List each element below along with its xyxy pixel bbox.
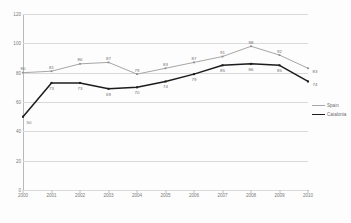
x-tick-mark <box>222 190 223 193</box>
data-point-marker <box>108 62 110 64</box>
data-label: 85 <box>220 68 225 73</box>
x-tick-mark <box>279 190 280 193</box>
x-tick-label: 2002 <box>75 193 85 198</box>
data-label: 91 <box>220 50 225 55</box>
data-label: 50 <box>27 119 32 124</box>
x-tick-mark <box>194 190 195 193</box>
x-tick-mark <box>23 190 24 193</box>
data-point-marker <box>193 73 195 75</box>
x-axis-tick-labels: 2000200120022003200420052006200720082009… <box>23 193 309 205</box>
x-tick-label: 2001 <box>46 193 56 198</box>
data-label: 69 <box>106 91 111 96</box>
data-point-marker <box>250 45 252 47</box>
data-point-marker <box>250 63 252 65</box>
data-label: 86 <box>78 57 83 62</box>
data-point-marker <box>193 62 195 64</box>
legend-item-spain[interactable]: Spain <box>312 101 351 110</box>
data-point-marker <box>279 54 281 56</box>
x-tick-label: 2006 <box>189 193 199 198</box>
x-tick-mark <box>137 190 138 193</box>
data-label: 79 <box>135 67 140 72</box>
x-tick-mark <box>80 190 81 193</box>
data-label: 70 <box>135 90 140 95</box>
x-tick-label: 2009 <box>274 193 284 198</box>
data-point-marker <box>222 56 224 58</box>
data-label: 74 <box>163 84 168 89</box>
x-tick-label: 2007 <box>217 193 227 198</box>
data-point-marker <box>79 63 81 65</box>
y-tick-label: 100 <box>1 41 21 46</box>
x-tick-label: 2000 <box>18 193 28 198</box>
data-label: 98 <box>249 39 254 44</box>
data-point-marker <box>51 82 53 84</box>
data-point-marker <box>51 70 53 72</box>
data-label: 86 <box>249 66 254 71</box>
data-label: 79 <box>192 77 197 82</box>
x-tick-mark <box>51 190 52 193</box>
series-line-catalonia <box>23 64 308 117</box>
data-point-marker <box>136 86 138 88</box>
chart-container: 120100806040200 808186877983879198928350… <box>0 0 351 223</box>
x-tick-mark <box>251 190 252 193</box>
x-tick-mark <box>308 190 309 193</box>
data-label: 73 <box>49 85 54 90</box>
legend-label-catalonia: Catalonia <box>327 112 346 117</box>
data-point-marker <box>307 67 309 69</box>
data-point-marker <box>165 67 167 69</box>
data-point-marker <box>22 72 24 74</box>
data-point-marker <box>222 64 224 66</box>
x-tick-label: 2008 <box>246 193 256 198</box>
series-lines <box>23 14 308 190</box>
data-point-marker <box>307 80 309 82</box>
y-tick-label: 60 <box>1 100 21 105</box>
plot-area: 8081868779838791989283507373697074798586… <box>23 14 308 190</box>
x-tick-mark <box>165 190 166 193</box>
x-tick-mark <box>108 190 109 193</box>
legend-label-spain: Spain <box>327 103 339 108</box>
data-label: 85 <box>277 68 282 73</box>
y-tick-label: 20 <box>1 158 21 163</box>
legend-line-swatch-spain <box>312 105 325 106</box>
x-tick-label: 2005 <box>160 193 170 198</box>
data-point-marker <box>136 73 138 75</box>
x-tick-label: 2004 <box>132 193 142 198</box>
data-label: 81 <box>49 64 54 69</box>
x-tick-label: 2003 <box>103 193 113 198</box>
data-point-marker <box>22 116 24 118</box>
data-point-marker <box>279 64 281 66</box>
data-label: 87 <box>106 55 111 60</box>
data-label: 83 <box>313 69 318 74</box>
data-point-marker <box>165 80 167 82</box>
data-label: 83 <box>163 61 168 66</box>
data-point-marker <box>108 88 110 90</box>
data-label: 73 <box>78 85 83 90</box>
data-label: 80 <box>21 66 26 71</box>
x-tick-label: 2010 <box>303 193 313 198</box>
y-tick-label: 120 <box>1 12 21 17</box>
legend-line-swatch-catalonia <box>312 114 325 115</box>
data-label: 74 <box>313 82 318 87</box>
y-axis-tick-labels: 120100806040200 <box>0 14 21 190</box>
chart-title <box>0 0 351 12</box>
chart-legend: Spain Catalonia <box>312 101 351 119</box>
y-tick-label: 0 <box>1 188 21 193</box>
data-label: 92 <box>277 48 282 53</box>
data-label: 87 <box>192 55 197 60</box>
y-tick-label: 40 <box>1 129 21 134</box>
legend-item-catalonia[interactable]: Catalonia <box>312 110 351 119</box>
data-point-marker <box>79 82 81 84</box>
y-tick-label: 80 <box>1 70 21 75</box>
series-line-spain <box>23 46 308 74</box>
